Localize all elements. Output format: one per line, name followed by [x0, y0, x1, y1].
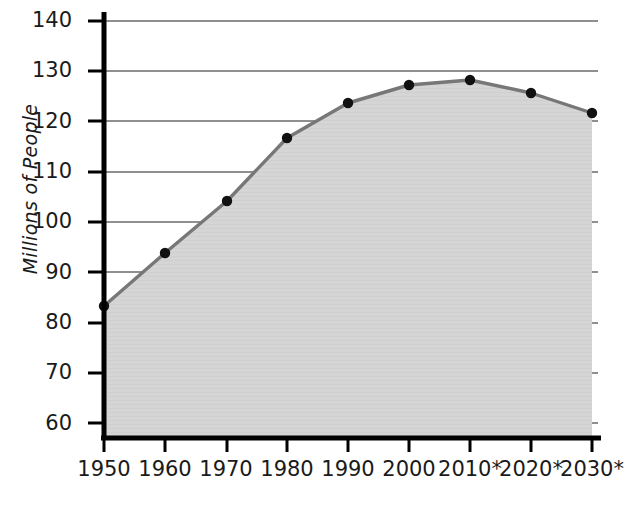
- data-point-1960: [160, 248, 170, 258]
- data-point-1980: [282, 133, 292, 143]
- data-point-2010: [465, 75, 475, 85]
- data-point-2000: [404, 80, 414, 90]
- data-point-1970: [222, 196, 232, 206]
- data-point-2020: [526, 88, 536, 98]
- area-fill: [104, 80, 592, 437]
- data-point-1990: [343, 98, 353, 108]
- data-point-2030: [587, 108, 597, 118]
